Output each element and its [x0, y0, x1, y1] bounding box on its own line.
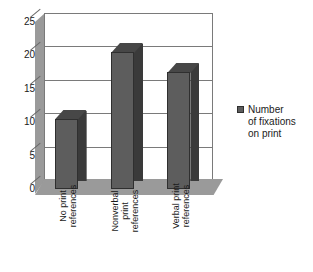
x-axis-label-line: references: [181, 185, 191, 228]
bar: [111, 52, 134, 189]
legend-item: Number of fixations on print: [237, 104, 311, 140]
bar-side-face: [190, 64, 199, 181]
legend-label-line-1: Number: [248, 104, 284, 115]
bar-front-face: [111, 52, 134, 189]
x-axis-label-line: Nonverbal: [110, 190, 120, 231]
x-axis-label-line: print: [120, 202, 130, 220]
legend-label-line-3: on print: [248, 128, 281, 139]
y-tick-mark: [30, 84, 40, 94]
legend: Number of fixations on print: [237, 104, 311, 140]
bar-side-face: [134, 44, 143, 181]
bar-side-face: [78, 111, 87, 181]
x-axis-label-line: Verbal print: [171, 183, 181, 229]
x-axis-label-line: No print: [58, 190, 68, 222]
y-tick-mark: [30, 17, 40, 27]
legend-label-line-2: of fixations: [248, 116, 296, 127]
y-tick-mark: [30, 184, 40, 194]
y-tick-mark: [30, 117, 40, 127]
x-axis-label: Verbal printreferences: [171, 169, 191, 243]
x-axis-label-line: references: [130, 190, 140, 233]
y-tick-mark: [30, 151, 40, 161]
x-axis-label-line: references: [68, 185, 78, 228]
bar-chart: 2520151050 No printreferencesNonverbalpr…: [0, 0, 313, 272]
x-axis-label: Nonverbalprintreferences: [110, 174, 140, 248]
legend-label: Number of fixations on print: [248, 104, 311, 140]
legend-swatch-icon: [237, 106, 244, 113]
y-tick-mark: [30, 50, 40, 60]
x-axis-label: No printreferences: [58, 169, 78, 243]
